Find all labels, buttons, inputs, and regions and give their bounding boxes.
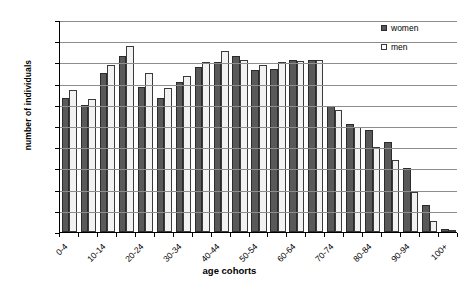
x-tick-mark [211, 233, 212, 237]
x-tick-mark [286, 233, 287, 237]
bar-women [138, 87, 146, 232]
gridline [60, 63, 457, 64]
bar-men [69, 90, 77, 232]
y-tick-mark [55, 42, 59, 43]
gridline [60, 169, 457, 170]
chart-figure: number of individuals 050001000015000200… [0, 0, 459, 294]
legend-swatch-women-icon [381, 25, 387, 31]
x-axis-title: age cohorts [0, 265, 459, 276]
bar-men [221, 51, 229, 232]
gridline [60, 127, 457, 128]
legend-item-men: men [381, 37, 451, 56]
bar-women [441, 229, 449, 232]
bar-women [232, 56, 240, 232]
bar-women [119, 56, 127, 232]
bar-men [449, 230, 457, 232]
legend-label-women: women [391, 23, 418, 33]
x-tick-mark [192, 233, 193, 237]
bar-women [214, 62, 222, 232]
bar-women [346, 124, 354, 232]
x-tick-mark [343, 233, 344, 237]
bar-men [202, 62, 210, 232]
x-tick-mark [173, 233, 174, 237]
bar-men [145, 73, 153, 232]
x-tick-mark [457, 233, 458, 237]
x-tick-mark [59, 233, 60, 237]
bar-women [422, 205, 430, 232]
y-axis-title: number of individuals [23, 25, 33, 185]
bar-men [183, 76, 191, 232]
x-tick-mark [362, 233, 363, 237]
x-tick-mark [135, 233, 136, 237]
bar-women [308, 60, 316, 232]
bar-women [195, 67, 203, 232]
x-tick-mark [116, 233, 117, 237]
bar-men [373, 147, 381, 232]
x-tick-mark [267, 233, 268, 237]
bar-women [384, 142, 392, 232]
bar-women [403, 168, 411, 232]
bar-men [316, 60, 324, 232]
bar-men [240, 60, 248, 232]
gridline [60, 191, 457, 192]
y-tick-mark [55, 148, 59, 149]
legend-item-women: women [381, 18, 451, 37]
y-tick-mark [55, 85, 59, 86]
gridline [60, 148, 457, 149]
x-tick-mark [249, 233, 250, 237]
y-tick-mark [55, 191, 59, 192]
gridline [60, 106, 457, 107]
bar-women [176, 82, 184, 232]
x-tick-mark [78, 233, 79, 237]
x-tick-mark [230, 233, 231, 237]
bar-men [335, 110, 343, 232]
x-tick-mark [305, 233, 306, 237]
bar-men [354, 127, 362, 232]
bar-women [365, 130, 373, 232]
bar-men [430, 221, 438, 232]
bar-women [251, 70, 259, 232]
y-tick-mark [55, 169, 59, 170]
gridline [60, 212, 457, 213]
x-tick-mark [154, 233, 155, 237]
bar-men [126, 46, 134, 232]
bar-men [164, 88, 172, 232]
y-tick-mark [55, 127, 59, 128]
x-tick-mark [97, 233, 98, 237]
legend-swatch-men-icon [381, 44, 387, 50]
x-tick-mark [419, 233, 420, 237]
x-tick-mark [381, 233, 382, 237]
bar-women [289, 60, 297, 232]
y-tick-mark [55, 21, 59, 22]
y-tick-mark [55, 63, 59, 64]
x-tick-mark [438, 233, 439, 237]
bar-men [392, 160, 400, 232]
bar-women [270, 69, 278, 232]
legend-label-men: men [391, 42, 408, 52]
y-tick-mark [55, 106, 59, 107]
bar-men [297, 61, 305, 232]
bar-women [100, 73, 108, 232]
chart-legend: women men [381, 18, 451, 56]
y-tick-mark [55, 212, 59, 213]
gridline [60, 85, 457, 86]
x-tick-mark [400, 233, 401, 237]
x-tick-mark [324, 233, 325, 237]
